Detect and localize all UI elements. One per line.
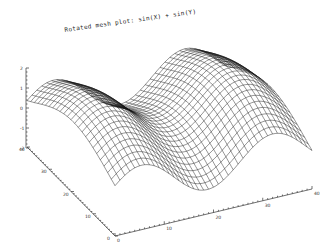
- y-tick-label: 0: [107, 236, 110, 241]
- y-tick-label: 20: [63, 192, 69, 197]
- x-tick-label: 10: [166, 226, 172, 231]
- x-tick-label: 0: [117, 238, 120, 243]
- z-tick-label: 0: [20, 106, 23, 111]
- mesh-lines: [27, 48, 312, 190]
- z-tick-label: -2: [20, 146, 25, 151]
- z-tick-label: 1: [20, 86, 23, 91]
- y-tick-label: 10: [85, 214, 91, 219]
- x-tick-label: 20: [216, 215, 222, 220]
- x-tick-label: 30: [265, 203, 271, 208]
- mesh-surface-plot: 010203040010203040210-1-2: [0, 0, 325, 250]
- y-tick-label: 30: [41, 169, 47, 174]
- z-tick-label: 2: [20, 66, 23, 71]
- x-tick-label: 40: [314, 191, 320, 196]
- z-tick-label: -1: [20, 126, 25, 131]
